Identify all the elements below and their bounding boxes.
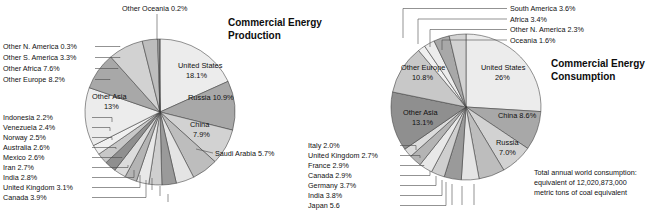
callout-other-oceania: Other Oceania 0.2% bbox=[122, 4, 188, 40]
production-title-line1: Commercial Energy bbox=[228, 17, 322, 28]
production-lower-label-indonesia-2-2: Indonesia 2.2% bbox=[3, 113, 53, 122]
consumption-lower-label-canada-2-9: Canada 2.9% bbox=[308, 171, 352, 180]
production-title: Commercial Energy Production bbox=[228, 17, 322, 41]
slice-label-china-r: China 8.6% bbox=[498, 111, 537, 120]
callout-label-other-oceania: Other Oceania 0.2% bbox=[122, 4, 188, 13]
slice-label-other-asia-line2: 13% bbox=[104, 102, 119, 111]
production-lower-label-australia-2-6: Australia 2.6% bbox=[3, 143, 50, 152]
slice-label-russia-line2-r: 7.0% bbox=[499, 148, 516, 157]
production-upper-leader-0 bbox=[95, 47, 120, 48]
consumption-lower-label-france-2-9: France 2.9% bbox=[308, 161, 350, 170]
production-lower-label-canada-3-9: Canada 3.9% bbox=[3, 193, 47, 202]
world-consumption-note: Total annual world consumption: equivale… bbox=[534, 168, 637, 197]
production-upper-label-other-europe-8-2: Other Europe 8.2% bbox=[3, 75, 65, 84]
slice-label-china-line2: 7.9% bbox=[193, 130, 210, 139]
slice-label-united-states-line1: United States bbox=[178, 61, 223, 70]
energy-pie-charts-figure: United States 18.1%Russia 10.9%China 7.9… bbox=[0, 0, 653, 211]
slice-label-russia: Russia 10.9% bbox=[188, 93, 234, 102]
production-lower-label-india-2-8: India 2.8% bbox=[3, 173, 38, 182]
consumption-top-leader-0 bbox=[403, 9, 507, 39]
slice-label-china-line1: China bbox=[190, 120, 210, 129]
consumption-pie-slices[interactable]: United States 26%China 8.6%Russia 7.0%Ja… bbox=[391, 34, 541, 180]
production-lower-label-iran-2-7: Iran 2.7% bbox=[3, 163, 35, 172]
consumption-title: Commercial Energy Consumption bbox=[551, 58, 645, 82]
consumption-title-line1: Commercial Energy bbox=[551, 58, 645, 69]
slice-label-united-states-line2-r: 26% bbox=[495, 73, 510, 82]
consumption-chart: United States 26%China 8.6%Russia 7.0%Ja… bbox=[308, 4, 645, 210]
production-upper-label-other-africa-7-6: Other Africa 7.6% bbox=[3, 64, 60, 73]
production-lower-label-norway-2-5: Norway 2.5% bbox=[3, 133, 47, 142]
slice-label-russia-line1-r: Russia bbox=[496, 138, 519, 147]
slice-label-other-asia-line1: Other Asia bbox=[92, 92, 127, 101]
note-line-1: Total annual world consumption: bbox=[534, 168, 637, 177]
slice-label-other-asia-line2-r: 13.1% bbox=[412, 118, 433, 127]
consumption-top-label-africa-3-4: Africa 3.4% bbox=[510, 15, 548, 24]
callout-label-saudi-arabia: Saudi Arabia 5.7% bbox=[215, 149, 275, 158]
note-line-3: metric tons of coal equivalent bbox=[534, 188, 627, 197]
consumption-top-label-south-america-3-6: South America 3.6% bbox=[510, 4, 576, 13]
slice-label-united-states-line2: 18.1% bbox=[186, 71, 207, 80]
slice-label-other-asia-line1-r: Other Asia bbox=[403, 108, 438, 117]
production-lower-label-united-kingdom-3-1: United Kingdom 3.1% bbox=[3, 183, 73, 192]
production-title-line2: Production bbox=[228, 30, 281, 41]
consumption-lower-label-germany-3-7: Germany 3.7% bbox=[308, 181, 357, 190]
consumption-lower-label-japan-5-6: Japan 5.6 bbox=[308, 201, 340, 210]
consumption-top-label-other-n-america-2-3: Other N. America 2.3% bbox=[510, 25, 585, 34]
consumption-lower-leader-4 bbox=[400, 176, 436, 186]
production-chart: United States 18.1%Russia 10.9%China 7.9… bbox=[3, 4, 322, 202]
slice-label-other-europe-line1-r: Other Europe bbox=[401, 63, 445, 72]
slice-label-united-states-line1-r: United States bbox=[481, 63, 526, 72]
consumption-lower-leader-3 bbox=[400, 171, 430, 176]
production-upper-label-other-s-america-3-3: Other S. America 3.3% bbox=[3, 53, 77, 62]
production-upper-label-other-n-america-0-3: Other N. America 0.3% bbox=[3, 42, 78, 51]
slice-label-other-europe-line2-r: 10.8% bbox=[412, 73, 433, 82]
production-lower-leader-8 bbox=[92, 180, 146, 198]
consumption-top-label-oceania-1-6: Oceania 1.6% bbox=[510, 36, 556, 45]
figure-svg: United States 18.1%Russia 10.9%China 7.9… bbox=[0, 0, 653, 211]
production-lower-label-venezuela-2-4: Venezuela 2.4% bbox=[3, 123, 56, 132]
note-line-2: equivalent of 12,020,873,000 bbox=[534, 178, 627, 187]
production-lower-label-mexico-2-6: Mexico 2.6% bbox=[3, 153, 45, 162]
consumption-title-line2: Consumption bbox=[551, 71, 615, 82]
consumption-lower-label-italy-2-0: Italy 2.0% bbox=[308, 141, 340, 150]
consumption-lower-label-india-3-8: India 3.8% bbox=[308, 191, 343, 200]
consumption-lower-label-united-kingdom-2-7: United Kingdom 2.7% bbox=[308, 151, 378, 160]
